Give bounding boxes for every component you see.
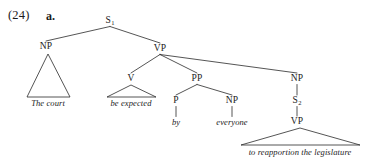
- node-label-text: PP: [191, 73, 202, 83]
- constituent-triangle: [241, 128, 360, 145]
- node-label-text: VP: [291, 116, 304, 126]
- node-label-text: P: [173, 95, 179, 105]
- constituent-triangle: [107, 85, 156, 97]
- terminal-t-reapportion: to reapportion the legislature: [249, 148, 352, 157]
- tree-edge: [46, 27, 110, 42]
- node-label-vp1: VP: [154, 44, 167, 54]
- node-label-np1: NP: [40, 42, 53, 52]
- node-label-pp: PP: [191, 74, 202, 84]
- node-label-text: S: [105, 15, 111, 25]
- node-label-text: S: [292, 95, 298, 105]
- node-label-np2: NP: [226, 96, 239, 106]
- node-label-s1: S1: [105, 16, 114, 26]
- node-label-text: VP: [154, 43, 167, 53]
- node-label-text: NP: [226, 95, 239, 105]
- tree-edge: [110, 27, 160, 44]
- terminal-t-the-court: The court: [31, 99, 65, 108]
- tree-lines: [0, 0, 368, 162]
- node-label-p: P: [173, 96, 179, 106]
- node-label-v: V: [127, 74, 134, 84]
- node-label-s2: S2: [292, 96, 301, 106]
- tree-edge: [160, 55, 297, 74]
- tree-edge: [176, 85, 197, 96]
- edge-layer: [46, 27, 297, 117]
- node-label-text: V: [127, 73, 134, 83]
- triangle-layer: [27, 54, 360, 145]
- node-label-vp2: VP: [291, 117, 304, 127]
- node-label-subscript: 1: [111, 19, 115, 26]
- node-label-np3: NP: [291, 74, 304, 84]
- tree-edge: [131, 55, 160, 74]
- node-label-text: NP: [40, 41, 53, 51]
- constituent-triangle: [27, 54, 70, 97]
- terminal-t-everyone: everyone: [216, 118, 247, 127]
- tree-edge: [197, 85, 232, 96]
- node-label-subscript: 2: [298, 99, 302, 106]
- node-label-text: NP: [291, 73, 304, 83]
- syntax-tree-figure: (24) a. S1NPVPVPPPNPNPS2VPThe courtbe ex…: [0, 0, 368, 162]
- terminal-t-by: by: [172, 118, 180, 127]
- terminal-t-be-expected: be expected: [111, 99, 152, 108]
